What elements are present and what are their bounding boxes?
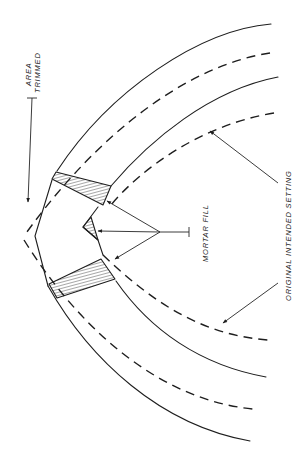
inner-solid-arc-bottom <box>116 281 266 377</box>
label-mortar-fill: MORTAR FILL <box>201 204 210 262</box>
mortar-fill-wedge-upper <box>52 172 111 205</box>
outer-dashed-arc-top <box>24 53 270 236</box>
outer-dashed-arc-bottom <box>24 240 253 409</box>
mortar-fill-leader-lower <box>115 232 160 259</box>
mortar-fill-leader-upper <box>107 201 160 232</box>
label-area-trimmed-line2: TRIMMED <box>33 52 42 93</box>
label-area-trimmed-line1: AREA <box>24 62 33 87</box>
intended-setting-leader-lower <box>223 283 278 323</box>
mortar-fill-wedge-middle <box>83 217 98 240</box>
area-trimmed-dimension-line <box>28 98 32 202</box>
inner-dashed-arc-bottom <box>103 255 268 340</box>
arch-trimming-diagram: AREA TRIMMED MORTAR FILL ORIGINAL INTEND… <box>0 0 307 469</box>
trimmed-crown <box>35 180 52 286</box>
label-original-intended-setting: ORIGINAL INTENDED SETTING <box>284 170 293 301</box>
mortar-fill-leader-middle <box>98 231 160 232</box>
mortar-fill-wedge-lower <box>49 259 115 298</box>
inner-solid-arc-top <box>111 77 278 186</box>
outer-solid-arc-top <box>57 24 271 171</box>
intended-setting-leader-upper <box>210 131 278 183</box>
